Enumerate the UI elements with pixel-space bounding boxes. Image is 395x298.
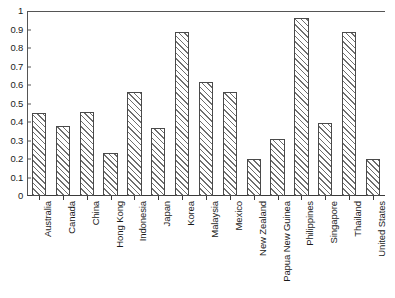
bar-slot bbox=[247, 11, 261, 196]
bar-slot bbox=[199, 11, 213, 196]
x-axis-tick-label: Mexico bbox=[234, 201, 244, 231]
y-axis-tick-mark bbox=[27, 122, 31, 123]
y-axis-tick-mark bbox=[27, 177, 31, 178]
bar bbox=[127, 92, 141, 196]
bar-slot bbox=[103, 11, 117, 196]
bar-slot bbox=[56, 11, 70, 196]
x-axis-tick-label: United States bbox=[377, 201, 387, 257]
x-axis-labels: AustraliaCanadaChinaHong KongIndonesiaJa… bbox=[27, 201, 385, 297]
y-axis-tick-label: 0.2 bbox=[10, 154, 23, 164]
x-axis-tick-label: Australia bbox=[43, 201, 53, 237]
y-axis-tick-label: 0.8 bbox=[10, 43, 23, 53]
bar-slot bbox=[32, 11, 46, 196]
bar-slot bbox=[342, 11, 356, 196]
x-axis-tick-label: Hong Kong bbox=[115, 201, 125, 248]
x-axis-tick-mark bbox=[230, 196, 231, 200]
x-axis-tick-label: Philippines bbox=[305, 201, 315, 246]
bar-slot bbox=[80, 11, 94, 196]
bar-slot bbox=[175, 11, 189, 196]
x-axis-tick-mark bbox=[87, 196, 88, 200]
x-axis-tick-label: Korea bbox=[186, 201, 196, 226]
bar bbox=[366, 159, 380, 196]
y-axis-tick-label: 0.7 bbox=[10, 62, 23, 72]
bar bbox=[151, 128, 165, 196]
x-axis-tick-mark bbox=[134, 196, 135, 200]
x-axis-tick-label: China bbox=[91, 201, 101, 225]
x-axis-tick-label: Canada bbox=[67, 201, 77, 234]
bar-slot bbox=[127, 11, 141, 196]
x-axis-tick-mark bbox=[63, 196, 64, 200]
x-axis-tick-label: Indonesia bbox=[138, 201, 148, 241]
y-axis: 10.90.80.70.60.50.40.30.20.10 bbox=[0, 11, 27, 196]
x-axis-tick-label: Papua New Guinea bbox=[282, 201, 292, 282]
bar-slot bbox=[270, 11, 284, 196]
bars-layer bbox=[27, 11, 385, 196]
y-axis-tick-label: 0.3 bbox=[10, 136, 23, 146]
x-axis-tick-mark bbox=[325, 196, 326, 200]
y-axis-tick-mark bbox=[27, 48, 31, 49]
y-axis-tick-mark bbox=[27, 29, 31, 30]
x-axis-tick-mark bbox=[182, 196, 183, 200]
bar-slot bbox=[294, 11, 308, 196]
x-axis-tick-label: New Zealand bbox=[258, 201, 268, 256]
bar bbox=[223, 92, 237, 196]
y-axis-tick-label: 1 bbox=[18, 6, 23, 16]
x-axis-tick-mark bbox=[206, 196, 207, 200]
y-axis-tick-label: 0.6 bbox=[10, 80, 23, 90]
y-axis-tick-label: 0.9 bbox=[10, 25, 23, 35]
bar bbox=[199, 82, 213, 196]
y-axis-tick-label: 0.4 bbox=[10, 117, 23, 127]
x-axis-tick-mark bbox=[349, 196, 350, 200]
y-axis-tick-label: 0.1 bbox=[10, 173, 23, 183]
x-axis-tick-label: Singapore bbox=[329, 201, 339, 243]
bar-slot bbox=[366, 11, 380, 196]
y-axis-tick-label: 0.5 bbox=[10, 99, 23, 109]
y-axis-tick-mark bbox=[27, 85, 31, 86]
y-axis-tick-label: 0 bbox=[18, 191, 23, 201]
y-axis-tick-mark bbox=[27, 140, 31, 141]
bar bbox=[80, 112, 94, 196]
bar-slot bbox=[223, 11, 237, 196]
bar bbox=[270, 139, 284, 196]
x-axis-tick-label: Malaysia bbox=[210, 201, 220, 238]
bar bbox=[294, 18, 308, 196]
bar bbox=[103, 153, 117, 196]
y-axis-tick-mark bbox=[27, 66, 31, 67]
bar-slot bbox=[318, 11, 332, 196]
x-axis-tick-mark bbox=[301, 196, 302, 200]
x-axis-tick-mark bbox=[39, 196, 40, 200]
bar bbox=[247, 159, 261, 196]
bar bbox=[56, 126, 70, 196]
x-axis-tick-mark bbox=[254, 196, 255, 200]
x-axis-tick-mark bbox=[111, 196, 112, 200]
y-axis-tick-mark bbox=[27, 103, 31, 104]
x-axis-tick-mark bbox=[158, 196, 159, 200]
bar bbox=[342, 32, 356, 196]
y-axis-tick-mark bbox=[27, 159, 31, 160]
x-axis-tick-mark bbox=[373, 196, 374, 200]
x-axis-tick-mark bbox=[278, 196, 279, 200]
bar bbox=[32, 113, 46, 196]
x-axis-tick-label: Japan bbox=[162, 201, 172, 226]
bar bbox=[175, 32, 189, 196]
bar-slot bbox=[151, 11, 165, 196]
x-axis-tick-label: Thailand bbox=[353, 201, 363, 237]
bar bbox=[318, 123, 332, 196]
bar-chart: 10.90.80.70.60.50.40.30.20.10 AustraliaC… bbox=[0, 0, 395, 298]
